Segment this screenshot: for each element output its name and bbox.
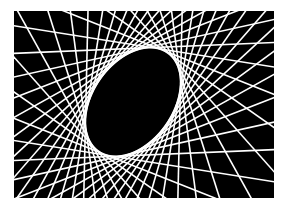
line-envelope-figure: [0, 0, 288, 208]
